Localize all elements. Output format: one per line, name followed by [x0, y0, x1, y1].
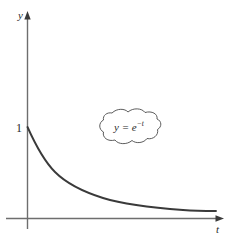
y-tick-label-1: 1: [16, 122, 22, 134]
t-axis-label: t: [216, 224, 219, 235]
equation-annotation: y = e−t: [114, 122, 144, 133]
y-axis-arrowhead: [24, 11, 30, 20]
equation-base: y = e: [114, 121, 137, 133]
x-axis-arrowhead: [216, 215, 225, 221]
exponential-decay-figure: y t 1 y = e−t: [0, 0, 230, 245]
equation-exponent: −t: [137, 119, 144, 128]
y-axis-label: y: [18, 10, 23, 21]
